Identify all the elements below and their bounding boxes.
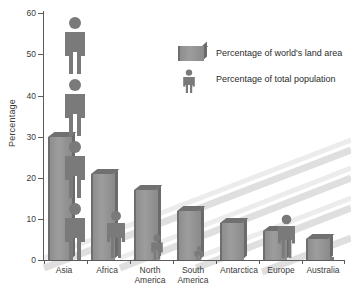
pictogram-population-europe [276,214,297,260]
pictogram-population-south-america [194,246,204,260]
y-tick-label-10: 10 [14,215,36,224]
x-tick-4 [216,260,217,264]
bar-land-area-antarctica [220,223,242,260]
person-icon [150,234,164,260]
x-label-line1: Australia [297,265,349,275]
x-tick-3 [173,260,174,264]
x-label-north-america: North America [126,265,174,285]
y-tick-30 [38,137,43,138]
y-axis-line [43,11,44,261]
y-tick-50 [38,54,43,55]
y-tick-0 [38,260,43,261]
x-label-line2: America [126,275,174,285]
x-tick-7 [344,260,345,264]
legend-label-population: Percentage of total population [216,74,336,84]
x-tick-5 [259,260,260,264]
x-label-asia: Asia [40,265,88,275]
person-icon [105,210,127,260]
y-tick-label-0: 0 [14,256,36,265]
person-icon [194,246,204,260]
y-tick-label-40: 40 [14,92,36,101]
x-label-line1: Africa [83,265,131,275]
y-tick-20 [38,178,43,179]
person-icon [329,256,335,260]
x-label-line2: America [169,275,217,285]
x-tick-6 [302,260,303,264]
pictogram-population-north-america [150,234,164,260]
y-tick-label-20: 20 [14,174,36,183]
x-tick-2 [130,260,131,264]
cube-icon [178,46,202,61]
pictogram-population-asia [62,13,88,260]
x-tick-1 [87,260,88,264]
cube-front-face [178,46,204,61]
bar-front-face [220,223,244,260]
y-tick-40 [38,96,43,97]
y-tick-10 [38,219,43,220]
x-label-africa: Africa [83,265,131,275]
y-tick-60 [38,13,43,14]
legend-label-land-area: Percentage of world's land area [216,48,342,58]
bar-front-face [306,239,330,260]
person-icon [182,69,196,93]
pictogram-population-australia [329,256,335,260]
x-axis-line [43,260,344,261]
x-label-line1: North [126,265,174,275]
y-tick-label-50: 50 [14,50,36,59]
pictogram-population-africa [105,210,127,260]
x-label-australia: Australia [297,265,349,275]
person-icon [276,214,297,260]
person-icon [62,13,88,260]
y-tick-label-30: 30 [14,133,36,142]
x-tick-0 [44,260,45,264]
y-tick-label-60: 60 [14,9,36,18]
x-label-line1: Asia [40,265,88,275]
bar-land-area-australia [306,239,328,260]
chart-container: Percentage 0 10 20 30 40 50 60 [0,0,351,288]
